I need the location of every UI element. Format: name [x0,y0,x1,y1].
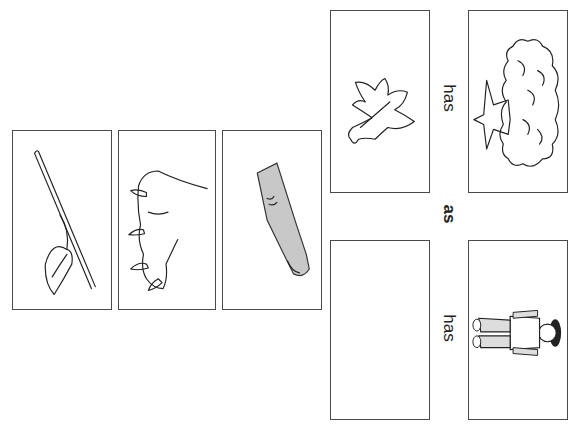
analogy-card-leaf [330,10,430,193]
tree-icon [469,11,567,192]
answer-choice-stem-leaf[interactable] [12,130,112,310]
relation-word-top: has [439,78,459,118]
stem-leaf-icon [13,131,111,309]
analogy-card-child [468,240,568,420]
connector-word: as [439,194,459,234]
answer-box[interactable] [330,240,430,420]
answer-choice-claws[interactable] [118,130,216,310]
finger-icon [223,131,321,309]
answer-choice-finger[interactable] [222,130,322,310]
analogy-card-tree [468,10,568,193]
relation-word-bottom: has [439,308,459,348]
child-icon [469,241,567,419]
claws-icon [119,131,215,309]
leaf-icon [331,11,429,192]
